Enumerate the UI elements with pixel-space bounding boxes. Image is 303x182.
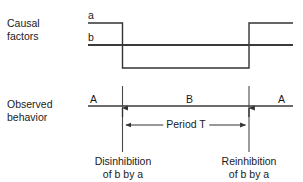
causal-factors-line-1: Causal: [7, 17, 40, 30]
causal-factors-row-label: Causal factors: [7, 17, 40, 43]
timing-diagram-figure: Causal factors Observed behavior a b A B…: [0, 0, 303, 182]
event-caption-right-line-1: Reinhibition: [222, 155, 277, 168]
event-caption-left-line-1: Disinhibition: [95, 155, 152, 168]
causal-factors-line-2: factors: [7, 30, 40, 43]
trace-a-label: a: [88, 9, 94, 22]
observed-behavior-row-label: Observed behavior: [7, 98, 53, 124]
period-span-label: Period T: [163, 118, 209, 131]
observed-behavior-line-1: Observed: [7, 98, 53, 111]
observed-behavior-line-2: behavior: [7, 111, 53, 124]
event-caption-right-line-2: of b by a: [222, 168, 277, 181]
behavior-state-left: A: [90, 93, 97, 106]
behavior-state-right: A: [278, 93, 285, 106]
event-caption-left: Disinhibition of b by a: [95, 155, 152, 180]
event-caption-right: Reinhibition of b by a: [222, 155, 277, 180]
behavior-state-middle: B: [186, 93, 193, 106]
event-caption-left-line-2: of b by a: [95, 168, 152, 181]
trace-b-label: b: [88, 31, 94, 44]
